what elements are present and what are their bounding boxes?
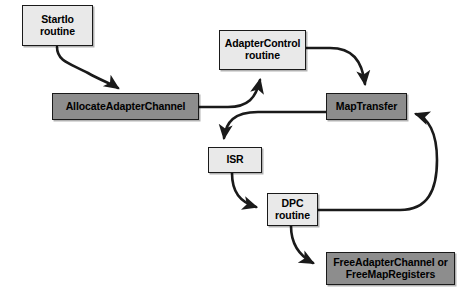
node-map-transfer-label-line1: MapTransfer — [327, 101, 406, 113]
node-startio: StartIo routine — [22, 5, 93, 46]
edge-startio-to-allocate — [57, 47, 118, 88]
edge-allocate-to-adapter-control — [199, 80, 260, 107]
node-allocate-adapter-channel: AllocateAdapterChannel — [52, 93, 199, 120]
flowchart-diagram: StartIo routine AllocateAdapterChannel A… — [0, 0, 467, 295]
node-allocate-adapter-channel-label-line1: AllocateAdapterChannel — [53, 101, 198, 113]
node-dpc-routine-label-line1: DPC — [268, 198, 317, 210]
node-startio-label-line2: routine — [23, 26, 92, 38]
edge-dpc-to-free — [291, 226, 313, 263]
edge-adapter-control-to-map-transfer — [306, 48, 365, 84]
node-adapter-control: AdapterControl routine — [219, 30, 306, 70]
node-isr-label-line1: ISR — [209, 154, 261, 166]
node-free-adapter-channel: FreeAdapterChannel or FreeMapRegisters — [326, 252, 455, 285]
node-dpc-routine: DPC routine — [267, 193, 318, 226]
edge-isr-to-dpc — [232, 173, 256, 207]
node-free-adapter-channel-label-line1: FreeAdapterChannel or — [327, 257, 454, 269]
node-dpc-routine-label-line2: routine — [268, 210, 317, 222]
node-map-transfer: MapTransfer — [326, 93, 407, 120]
node-adapter-control-label-line2: routine — [220, 50, 305, 62]
edge-dpc-to-map-transfer — [318, 114, 437, 210]
edge-map-transfer-to-isr — [224, 112, 326, 138]
node-isr: ISR — [208, 147, 262, 173]
node-free-adapter-channel-label-line2: FreeMapRegisters — [327, 269, 454, 281]
node-startio-label-line1: StartIo — [23, 14, 92, 26]
